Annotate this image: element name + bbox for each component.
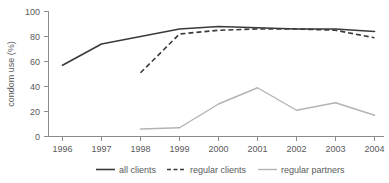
x-tick-label-2004: 2004 [364,144,384,154]
y-tick-label-80: 80 [30,32,40,42]
condom-use-line-chart: 100 80 60 40 20 0 condom use (%) 1996 19… [0,0,389,183]
y-tick-label-100: 100 [25,7,40,17]
x-tick-label-2002: 2002 [286,144,306,154]
series-line-all-clients [63,27,375,66]
x-tick-label-1996: 1996 [52,144,72,154]
legend-label-all-clients: all clients [119,165,157,175]
x-tick-label-2000: 2000 [208,144,228,154]
x-tick-label-1998: 1998 [130,144,150,154]
x-tick-label-2003: 2003 [325,144,345,154]
y-tick-label-0: 0 [35,132,40,142]
y-tick-label-60: 60 [30,57,40,67]
chart-canvas: 100 80 60 40 20 0 condom use (%) 1996 19… [0,0,389,183]
y-tick-label-20: 20 [30,107,40,117]
legend-label-regular-clients: regular clients [190,165,247,175]
series-line-regular-partners [141,88,375,129]
chart-legend: all clients regular clients regular part… [96,165,345,175]
series-line-regular-clients [141,29,375,73]
x-tick-label-1997: 1997 [91,144,111,154]
x-tick-label-2001: 2001 [247,144,267,154]
y-tick-label-40: 40 [30,82,40,92]
y-axis-title: condom use (%) [6,41,16,107]
legend-label-regular-partners: regular partners [281,165,345,175]
x-tick-label-1999: 1999 [169,144,189,154]
